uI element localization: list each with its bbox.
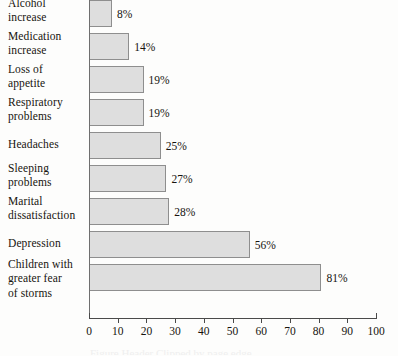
category-label: Medicationincrease (8, 29, 84, 58)
chart-row: Maritaldissatisfaction28% (0, 195, 398, 228)
x-axis-tick (347, 318, 348, 323)
category-label-line: of storms (8, 286, 84, 300)
category-label: Loss ofappetite (8, 62, 84, 91)
category-label-line: dissatisfaction (8, 208, 84, 222)
chart-rows: Alcoholincrease8%Medicationincrease14%Lo… (0, 0, 398, 294)
category-label: Respiratoryproblems (8, 95, 84, 124)
y-axis-line (89, 0, 90, 318)
x-axis-tick (146, 318, 147, 323)
bar-value-label: 81% (321, 272, 347, 284)
bar[interactable] (89, 132, 161, 159)
bar-value-label: 28% (169, 206, 195, 218)
category-label: Children withgreater fearof storms (8, 257, 84, 300)
bar-track: 81% (89, 264, 376, 291)
category-label: Maritaldissatisfaction (8, 194, 84, 223)
chart-row: Loss ofappetite19% (0, 63, 398, 96)
bar-track: 56% (89, 231, 376, 258)
category-label-line: Respiratory (8, 95, 84, 109)
bar-value-label: 56% (250, 239, 276, 251)
x-axis-tick (376, 313, 377, 319)
bar[interactable] (89, 33, 129, 60)
chart-row: Medicationincrease14% (0, 30, 398, 63)
category-label-line: problems (8, 109, 84, 123)
clipped-footer-text: Figure Header Clipped by page edge (90, 347, 350, 355)
chart-row: Respiratoryproblems19% (0, 96, 398, 129)
bar-track: 28% (89, 198, 376, 225)
x-axis-tick-label: 10 (112, 325, 124, 337)
chart-row: Children withgreater fearof storms81% (0, 261, 398, 294)
category-label-line: Medication (8, 29, 84, 43)
bar[interactable] (89, 231, 250, 258)
category-label-line: Loss of (8, 62, 84, 76)
x-axis-tick-label: 20 (141, 325, 153, 337)
bar-value-label: 19% (144, 74, 170, 86)
bar-value-label: 27% (166, 173, 192, 185)
x-axis-tick (261, 318, 262, 323)
category-label-line: Alcohol (8, 0, 84, 10)
x-axis-tick (233, 318, 234, 323)
category-label-line: Headaches (8, 137, 84, 151)
category-label-line: greater fear (8, 271, 84, 285)
category-label-line: Depression (8, 236, 84, 250)
x-axis-tick-label: 90 (342, 325, 354, 337)
bar[interactable] (89, 66, 144, 93)
x-axis-tick-label: 40 (198, 325, 210, 337)
x-axis-tick-label: 80 (313, 325, 325, 337)
x-axis-tick-label: 0 (86, 325, 92, 337)
bar-value-label: 19% (144, 107, 170, 119)
bar[interactable] (89, 99, 144, 126)
x-axis-tick-label: 30 (169, 325, 181, 337)
x-axis-tick-label: 60 (255, 325, 267, 337)
bar[interactable] (89, 0, 112, 27)
x-axis-tick (319, 318, 320, 323)
bar-track: 19% (89, 66, 376, 93)
chart-row: Headaches25% (0, 129, 398, 162)
category-label: Alcoholincrease (8, 0, 84, 25)
bar[interactable] (89, 165, 166, 192)
bar-value-label: 8% (112, 8, 132, 20)
x-axis-tick (118, 318, 119, 323)
x-axis-tick (89, 313, 90, 319)
bar[interactable] (89, 198, 169, 225)
bar-track: 8% (89, 0, 376, 27)
bar-chart: Alcoholincrease8%Medicationincrease14%Lo… (0, 0, 398, 356)
category-label-line: appetite (8, 76, 84, 90)
x-axis-tick-label: 100 (367, 325, 384, 337)
x-axis-tick (290, 318, 291, 323)
bar-value-label: 25% (161, 140, 187, 152)
bar-track: 25% (89, 132, 376, 159)
x-axis-tick-label: 50 (227, 325, 239, 337)
x-axis-tick-label: 70 (284, 325, 296, 337)
category-label-line: increase (8, 10, 84, 24)
category-label-line: Marital (8, 194, 84, 208)
bar[interactable] (89, 264, 321, 291)
bar-track: 14% (89, 33, 376, 60)
bar-track: 27% (89, 165, 376, 192)
category-label: Sleepingproblems (8, 161, 84, 190)
x-axis-tick (175, 318, 176, 323)
category-label-line: problems (8, 175, 84, 189)
category-label-line: increase (8, 43, 84, 57)
bar-track: 19% (89, 99, 376, 126)
chart-row: Sleepingproblems27% (0, 162, 398, 195)
chart-row: Alcoholincrease8% (0, 0, 398, 30)
x-axis-tick (204, 318, 205, 323)
category-label: Depression (8, 236, 84, 250)
category-label-line: Sleeping (8, 161, 84, 175)
bar-value-label: 14% (129, 41, 155, 53)
category-label-line: Children with (8, 257, 84, 271)
category-label: Headaches (8, 137, 84, 151)
